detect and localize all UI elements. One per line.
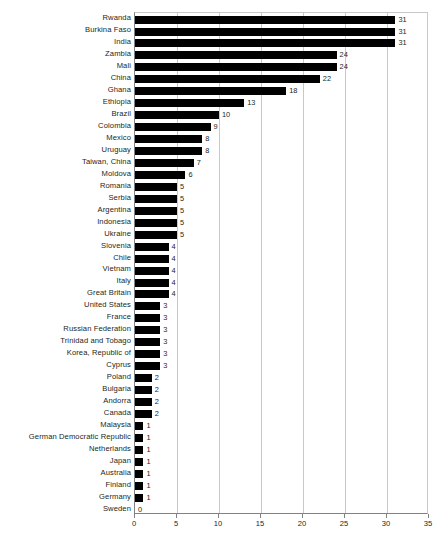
category-label: China [111, 72, 131, 84]
bar-value-label: 1 [146, 482, 150, 490]
bar [135, 434, 143, 442]
bar [135, 410, 152, 418]
bar-value-label: 1 [146, 458, 150, 466]
bar-value-label: 24 [340, 51, 348, 59]
bar [135, 422, 143, 430]
bar [135, 171, 185, 179]
bar [135, 374, 152, 382]
category-label: France [107, 311, 131, 323]
category-label: United States [84, 299, 131, 311]
bar [135, 338, 160, 346]
category-label: Ghana [108, 84, 131, 96]
category-label: Colombia [98, 120, 131, 132]
x-tick-label-35: 35 [424, 519, 432, 529]
bar [135, 279, 169, 287]
bar-value-label: 6 [188, 171, 192, 179]
bar-value-label: 24 [340, 63, 348, 71]
category-label: Trinidad and Tobago [60, 335, 131, 347]
bar-value-label: 2 [155, 398, 159, 406]
category-label: Canada [104, 406, 131, 418]
category-label: Andorra [103, 394, 131, 406]
bar-value-label: 5 [180, 231, 184, 239]
bar [135, 207, 177, 215]
category-label: Poland [107, 371, 131, 383]
bar-value-label: 3 [163, 350, 167, 358]
category-label: Malaysia [100, 418, 131, 430]
bar [135, 87, 286, 95]
bar [135, 290, 169, 298]
bar [135, 75, 320, 83]
bar [135, 243, 169, 251]
bar-value-label: 3 [163, 302, 167, 310]
bar-rows: 3131312424221813109887655555444443333332… [135, 13, 427, 513]
category-label: Brazil [111, 108, 131, 120]
bar-value-label: 3 [163, 326, 167, 334]
category-label: India [114, 36, 131, 48]
category-label: Romania [100, 179, 131, 191]
bar [135, 51, 337, 59]
x-tick-mark-30 [386, 514, 387, 518]
bar-value-label: 2 [155, 410, 159, 418]
bar-value-label: 31 [398, 39, 406, 47]
category-label: Mexico [106, 132, 131, 144]
category-label: Germany [99, 490, 131, 502]
bar-value-label: 22 [323, 75, 331, 83]
bar-value-label: 8 [205, 135, 209, 143]
bar [135, 482, 143, 490]
x-axis: 05101520253035 [134, 514, 428, 544]
bar-value-label: 2 [155, 386, 159, 394]
bar-value-label: 1 [146, 446, 150, 454]
category-label: Sweden [103, 502, 131, 514]
bar [135, 135, 202, 143]
plot-area: 3131312424221813109887655555444443333332… [134, 12, 428, 514]
x-tick-mark-10 [218, 514, 219, 518]
category-label: Moldova [102, 167, 131, 179]
x-tick-label-0: 0 [132, 519, 136, 529]
bar [135, 255, 169, 263]
bar [135, 195, 177, 203]
bar [135, 147, 202, 155]
bar-value-label: 0 [138, 506, 142, 514]
category-label: Ukraine [104, 227, 131, 239]
bar-value-label: 18 [289, 87, 297, 95]
category-label: Ethiopia [103, 96, 131, 108]
category-label: Zambia [105, 48, 131, 60]
bar-value-label: 31 [398, 16, 406, 24]
bar [135, 16, 395, 24]
bar-value-label: 5 [180, 195, 184, 203]
bar-value-label: 3 [163, 362, 167, 370]
category-label: Netherlands [89, 442, 131, 454]
x-tick-label-20: 20 [298, 519, 306, 529]
bar [135, 231, 177, 239]
category-label: Russian Federation [63, 323, 131, 335]
bar-value-label: 4 [172, 290, 176, 298]
x-tick-mark-5 [176, 514, 177, 518]
category-label: Vietnam [103, 263, 131, 275]
x-tick-label-10: 10 [214, 519, 222, 529]
bar-value-label: 4 [172, 243, 176, 251]
bar [135, 446, 143, 454]
bar-value-label: 5 [180, 183, 184, 191]
bar-value-label: 13 [247, 99, 255, 107]
category-label: Korea, Republic of [67, 347, 131, 359]
bar-value-label: 3 [163, 338, 167, 346]
bar [135, 302, 160, 310]
bar [135, 314, 160, 322]
x-tick-label-30: 30 [382, 519, 390, 529]
x-tick-mark-15 [260, 514, 261, 518]
category-label: Cyprus [106, 359, 131, 371]
bar-value-label: 2 [155, 374, 159, 382]
x-tick-mark-0 [134, 514, 135, 518]
category-label: Bulgaria [102, 383, 131, 395]
x-tick-label-25: 25 [340, 519, 348, 529]
category-label: Burkina Faso [85, 24, 131, 36]
bar [135, 63, 337, 71]
bar [135, 183, 177, 191]
bar [135, 219, 177, 227]
bar-value-label: 8 [205, 147, 209, 155]
bar-chart: RwandaBurkina FasoIndiaZambiaMaliChinaGh… [0, 0, 448, 549]
bar-value-label: 1 [146, 470, 150, 478]
bar-value-label: 4 [172, 255, 176, 263]
x-tick-mark-20 [302, 514, 303, 518]
bar [135, 111, 219, 119]
